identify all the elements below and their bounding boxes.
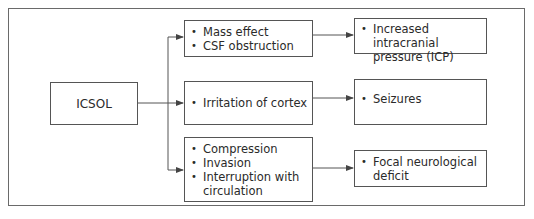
mechanism-item: Interruption with circulation <box>203 170 312 198</box>
mechanism-item: Invasion <box>203 156 312 170</box>
outcome-item: Seizures <box>373 92 486 106</box>
mechanism-item: Irritation of cortex <box>203 96 307 110</box>
mechanism-box-mass-effect: Mass effect CSF obstruction <box>184 20 313 57</box>
outcome-box-focal-deficit: Focal neurological deficit <box>354 150 487 187</box>
mechanism-box-compression: Compression Invasion Interruption with c… <box>184 137 313 202</box>
mechanism-box-irritation: Irritation of cortex <box>184 81 313 125</box>
root-box-icsol: ICSOL <box>50 82 138 125</box>
mechanism-item: CSF obstruction <box>203 39 312 53</box>
outcome-box-icp: Increased intracranial pressure (ICP) <box>354 18 487 54</box>
outcome-box-seizures: Seizures <box>354 79 487 125</box>
outcome-item: Focal neurological deficit <box>373 155 486 183</box>
outcome-item: Increased intracranial pressure (ICP) <box>373 22 486 64</box>
root-label: ICSOL <box>76 97 112 111</box>
mechanism-item: Mass effect <box>203 25 312 39</box>
mechanism-item: Compression <box>203 142 312 156</box>
